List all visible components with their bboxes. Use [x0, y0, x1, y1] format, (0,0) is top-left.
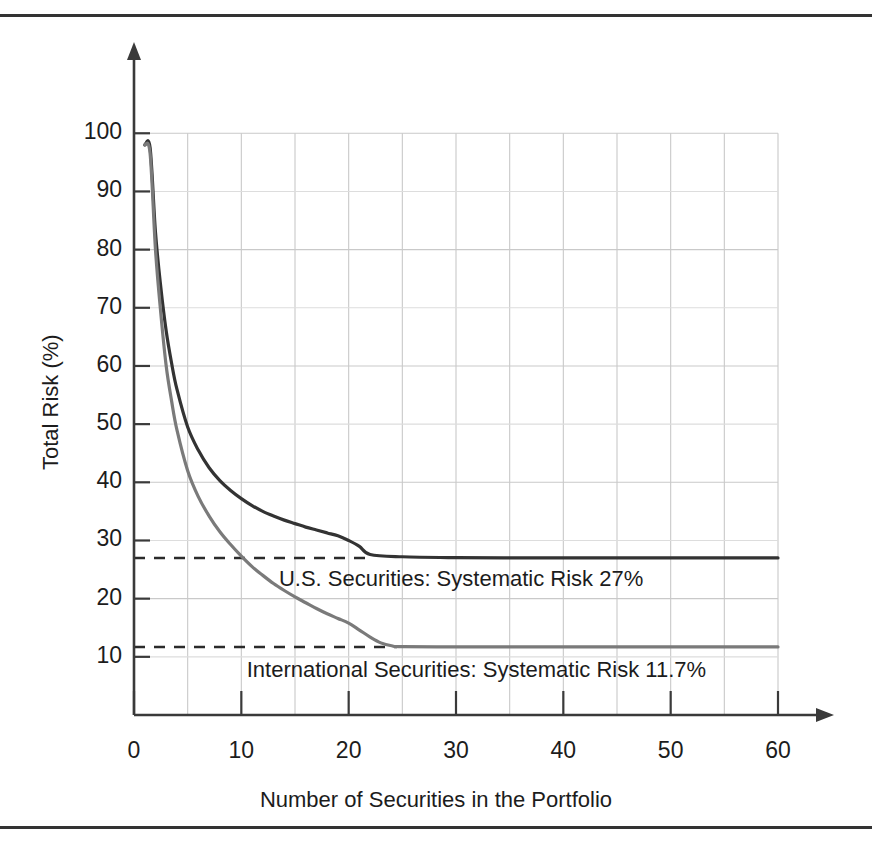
x-axis-title: Number of Securities in the Portfolio — [0, 787, 872, 813]
y-tick-label: 100 — [52, 118, 122, 145]
series-annotation-label: International Securities: Systematic Ris… — [247, 657, 706, 683]
y-tick-label: 30 — [52, 525, 122, 552]
axis-lines — [127, 42, 834, 722]
y-tick-label: 50 — [52, 409, 122, 436]
x-tick-label: 30 — [426, 737, 486, 764]
y-tick-label: 90 — [52, 176, 122, 203]
x-tick-label: 20 — [319, 737, 379, 764]
series-annotation-label: U.S. Securities: Systematic Risk 27% — [279, 566, 643, 592]
chart-plot-area — [0, 0, 872, 848]
figure-container: Total Risk (%) Number of Securities in t… — [0, 0, 872, 848]
y-tick-label: 40 — [52, 467, 122, 494]
x-tick-label: 40 — [533, 737, 593, 764]
x-tick-label: 60 — [748, 737, 808, 764]
y-tick-label: 20 — [52, 584, 122, 611]
y-tick-label: 60 — [52, 351, 122, 378]
y-tick-label: 10 — [52, 642, 122, 669]
y-tick-label: 80 — [52, 235, 122, 262]
x-tick-label: 10 — [211, 737, 271, 764]
x-tick-label: 0 — [104, 737, 164, 764]
x-tick-label: 50 — [641, 737, 701, 764]
y-tick-label: 70 — [52, 293, 122, 320]
